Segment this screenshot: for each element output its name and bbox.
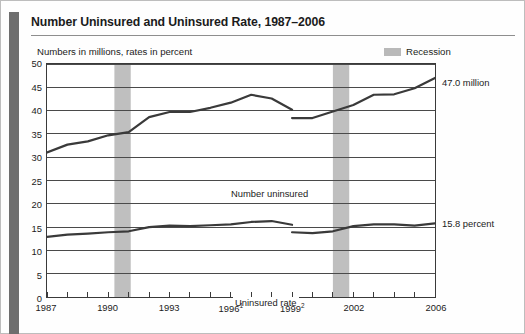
series-line-uninsured-rate-seg1 [47, 221, 292, 237]
y-tick-label-25: 25 [16, 175, 42, 186]
recession-swatch-icon [384, 48, 401, 56]
x-tick-label-2002: 2002 [343, 302, 364, 313]
x-tick-label-1999: 19992 [280, 302, 304, 314]
y-tick-label-15: 15 [16, 222, 42, 233]
chart-svg [47, 64, 435, 297]
x-tick-label-1996: 19961 [219, 302, 243, 314]
y-tick-label-20: 20 [16, 199, 42, 210]
x-tick-label-1987: 1987 [36, 302, 57, 313]
y-tick-label-5: 5 [16, 269, 42, 280]
callout-number-uninsured: 47.0 million [442, 77, 489, 88]
y-tick-label-30: 30 [16, 152, 42, 163]
callout-uninsured-rate: 15.8 percent [442, 218, 494, 229]
series-line-uninsured-rate-seg2 [292, 223, 435, 233]
y-tick-label-40: 40 [16, 105, 42, 116]
x-tick-label-1993: 1993 [159, 302, 180, 313]
series-line-number-uninsured-seg1 [47, 95, 292, 153]
plot-area: Number uninsured Uninsured rate [46, 63, 436, 298]
y-axis-labels: 50454035302520151050 [14, 63, 42, 298]
x-tick-label-2006: 2006 [426, 302, 447, 313]
x-tick-label-1990: 1990 [97, 302, 118, 313]
chart-page: Number Uninsured and Uninsured Rate, 198… [0, 0, 525, 334]
chart-subtitle: Numbers in millions, rates in percent [37, 46, 192, 57]
y-tick-label-45: 45 [16, 81, 42, 92]
series-label-number-uninsured: Number uninsured [229, 188, 310, 199]
x-tick-footnote-1996: 1 [239, 302, 243, 309]
series-line-number-uninsured-seg2 [292, 78, 435, 118]
y-tick-label-35: 35 [16, 128, 42, 139]
title-divider [31, 35, 515, 36]
y-tick-label-10: 10 [16, 246, 42, 257]
x-tick-footnote-1999: 2 [301, 302, 305, 309]
legend-label-recession: Recession [406, 46, 451, 57]
y-tick-label-50: 50 [16, 58, 42, 69]
page-title: Number Uninsured and Uninsured Rate, 198… [31, 15, 325, 29]
legend: Recession [384, 46, 451, 57]
